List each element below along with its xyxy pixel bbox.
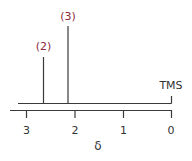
tick-label-2: 2	[72, 124, 79, 137]
tms-label: TMS	[158, 79, 182, 92]
nmr-spectrum: (2) (3) TMS 3 2 1 0 δ	[0, 0, 192, 161]
peak-label-2: (2)	[36, 40, 52, 53]
axis-label-delta: δ	[94, 139, 101, 153]
peak-label-3: (3)	[60, 10, 76, 23]
tick-label-1: 1	[120, 124, 127, 137]
tick-label-0: 0	[168, 124, 175, 137]
tick-label-3: 3	[23, 124, 30, 137]
